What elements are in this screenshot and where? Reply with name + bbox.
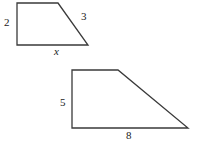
figure-canvas: 2 3 x 5 8 — [0, 0, 198, 154]
side-label-small-left: 2 — [4, 17, 10, 28]
side-label-large-left: 5 — [60, 97, 66, 108]
side-label-small-base: x — [54, 46, 59, 57]
trapezoid-small-outline — [17, 3, 88, 45]
side-label-large-base: 8 — [126, 130, 132, 141]
trapezoids-svg — [0, 0, 198, 154]
trapezoid-large-outline — [72, 70, 188, 128]
side-label-small-slant: 3 — [81, 11, 87, 22]
